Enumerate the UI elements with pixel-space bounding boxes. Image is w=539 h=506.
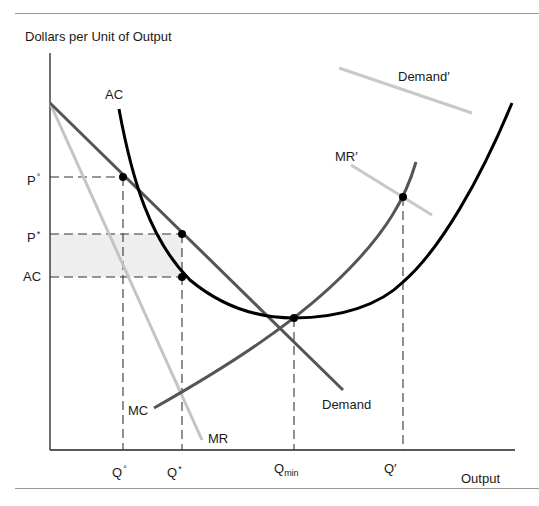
- label-ac-curve: AC: [105, 88, 123, 102]
- x-tick-qstar: Q*: [167, 462, 182, 480]
- y-tick-ac: AC: [23, 270, 41, 284]
- label-mc: MC: [128, 404, 148, 418]
- point-qprime: [399, 193, 407, 201]
- x-axis-title: Output: [461, 472, 500, 486]
- point-p0-q0: [119, 173, 127, 181]
- profit-area: [50, 234, 182, 277]
- label-mr: MR: [208, 432, 228, 446]
- economics-diagram: [0, 0, 539, 506]
- label-demand-prime: Demand′: [398, 70, 450, 84]
- label-demand: Demand: [322, 398, 371, 412]
- point-pstar-qstar: [178, 230, 186, 238]
- mc-curve: [154, 162, 416, 408]
- y-tick-pstar: P*: [27, 227, 40, 245]
- mr-prime-curve: [351, 165, 432, 215]
- x-tick-q0: Q°: [112, 462, 127, 480]
- ac-curve: [119, 103, 512, 318]
- point-ac-qstar: [178, 273, 186, 281]
- x-tick-qprime: Q′: [384, 462, 397, 476]
- label-mr-prime: MR′: [335, 150, 358, 164]
- point-qmin: [290, 314, 298, 322]
- x-tick-qmin: Qmin: [274, 462, 299, 480]
- y-axis-title: Dollars per Unit of Output: [25, 30, 172, 44]
- y-tick-p0: P°: [27, 170, 40, 188]
